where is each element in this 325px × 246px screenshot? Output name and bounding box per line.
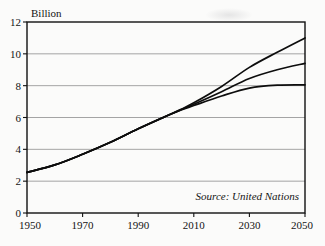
y-tick-label-10: 10 [10,48,22,60]
x-axis-tick-labels: 195019701990201020302050 [19,219,314,231]
y-axis-tick-labels: 024681012 [10,16,22,219]
x-tick-label-1990: 1990 [127,219,150,231]
series-line-low-variant [27,85,305,173]
y-tick-label-2: 2 [16,175,22,187]
x-tick-label-1950: 1950 [19,219,42,231]
x-tick-label-2050: 2050 [291,219,314,231]
axis-tickmarks [23,22,305,217]
x-tick-label-2030: 2030 [238,219,261,231]
projection-series [27,38,305,172]
x-tick-label-1970: 1970 [72,219,95,231]
y-tick-label-8: 8 [16,80,22,92]
y-axis-title: Billion [31,7,62,19]
y-tick-label-12: 12 [10,16,21,28]
y-tick-label-4: 4 [16,143,22,155]
y-tick-label-0: 0 [16,207,22,219]
y-tick-label-6: 6 [16,112,22,124]
series-line-high-variant [27,38,305,172]
x-tick-label-2010: 2010 [183,219,206,231]
population-projection-figure: 024681012 195019701990201020302050 Billi… [0,0,325,246]
source-annotation: Source: United Nations [196,190,299,202]
chart-canvas: 024681012 195019701990201020302050 Billi… [0,0,325,246]
